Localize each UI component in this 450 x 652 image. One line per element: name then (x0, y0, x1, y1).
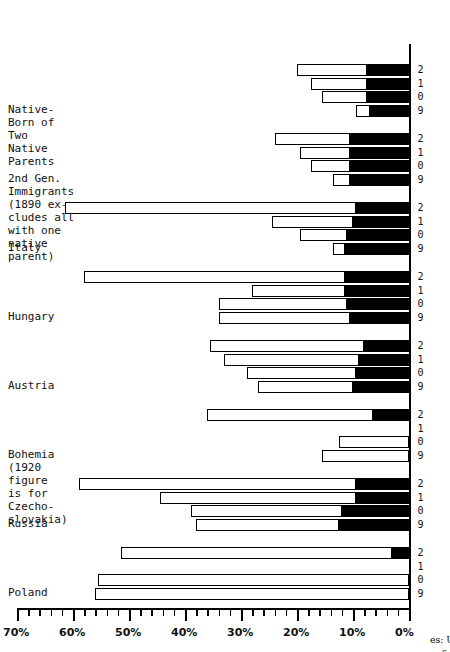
decade-tick-label: 0 (413, 230, 427, 241)
bar-segment-black (356, 202, 409, 214)
decade-tick-label: 1 (413, 492, 427, 503)
bar (300, 147, 409, 159)
axis-tick-label: 60% (59, 626, 85, 639)
axis-tick-major (73, 610, 75, 621)
axis-tick-minor (62, 610, 64, 616)
decade-tick-label: 1 (413, 423, 427, 434)
bar-segment-black (345, 285, 409, 297)
plot-area: 0%10%20%30%40%50%60%70% 9012901290129012… (0, 0, 450, 652)
bar-segment-black (373, 409, 409, 421)
bar-segment-white (322, 450, 409, 462)
bar-segment-white (95, 588, 409, 600)
bar (191, 505, 409, 517)
bar (275, 133, 409, 145)
bar-segment-white (219, 298, 348, 310)
bar (258, 381, 409, 393)
axis-tick-minor (207, 610, 209, 616)
bar-segment-white (333, 243, 344, 255)
decade-tick-label: 9 (413, 243, 427, 254)
bar (207, 409, 409, 421)
bar-segment-white (65, 202, 356, 214)
axis-tick-minor (230, 610, 232, 616)
bar (272, 216, 409, 228)
bar-segment-white (121, 547, 393, 559)
bar-segment-black (356, 367, 409, 379)
group-label-2nd-gen-immigrants: 2nd Gen. Immigrants (1890 ex- cludes all… (8, 172, 74, 263)
bar-segment-black (350, 174, 409, 186)
bar-segment-black (345, 243, 409, 255)
bar (84, 271, 409, 283)
axis-tick-minor (196, 610, 198, 616)
bar-segment-white (300, 229, 348, 241)
axis-tick-major (17, 610, 19, 621)
bar-segment-white (191, 505, 342, 517)
axis-tick-label: 50% (115, 626, 141, 639)
bar-segment-black (353, 216, 409, 228)
bar (196, 519, 409, 531)
decade-tick-label: 9 (413, 519, 427, 530)
bar (98, 574, 409, 586)
bar-segment-white (300, 147, 350, 159)
bar-segment-black (347, 298, 409, 310)
decade-tick-label: 9 (413, 381, 427, 392)
bar-segment-white (98, 574, 409, 586)
axis-tick-major (185, 610, 187, 621)
bar-segment-black (370, 105, 409, 117)
bar-segment-white (247, 367, 356, 379)
bar-segment-black (350, 133, 409, 145)
bar (219, 298, 409, 310)
bar (247, 367, 409, 379)
bar (297, 64, 409, 76)
axis-tick-minor (286, 610, 288, 616)
axis-tick-minor (252, 610, 254, 616)
axis-tick-major (409, 610, 411, 621)
bar-segment-black (350, 312, 409, 324)
bar (252, 285, 409, 297)
axis-tick-minor (163, 610, 165, 616)
decade-tick-label: 1 (413, 78, 427, 89)
axis-tick-minor (151, 610, 153, 616)
bar (322, 91, 409, 103)
bar-segment-white (311, 160, 350, 172)
axis-tick-minor (342, 610, 344, 616)
bar-segment-black (392, 547, 409, 559)
bar (356, 105, 409, 117)
bar (300, 229, 409, 241)
axis-tick-major (297, 610, 299, 621)
decade-tick-label: 1 (413, 285, 427, 296)
axis-tick-minor (398, 610, 400, 616)
decade-tick-label: 9 (413, 174, 427, 185)
bar (333, 243, 409, 255)
group-label-poland: Poland (8, 586, 48, 599)
axis-tick-label: 10% (339, 626, 365, 639)
bar-segment-white (252, 285, 344, 297)
bar-segment-black (364, 340, 409, 352)
bar-segment-black (367, 91, 409, 103)
decade-tick-label: 0 (413, 161, 427, 172)
axis-tick-minor (364, 610, 366, 616)
bar-segment-white (84, 271, 344, 283)
decade-tick-label: 2 (413, 341, 427, 352)
decade-tick-label: 0 (413, 92, 427, 103)
axis-tick-minor (107, 610, 109, 616)
decade-tick-label: 0 (413, 368, 427, 379)
decade-tick-label: 2 (413, 479, 427, 490)
axis-tick-minor (387, 610, 389, 616)
bar-segment-black (342, 505, 409, 517)
bar-segment-black (345, 271, 409, 283)
bar-segment-black (359, 354, 409, 366)
bar-segment-white (79, 478, 356, 490)
axis-tick-minor (375, 610, 377, 616)
bar-segment-black (350, 147, 409, 159)
decade-tick-label: 0 (413, 575, 427, 586)
bar-segment-white (333, 174, 350, 186)
decade-tick-label: 1 (413, 147, 427, 158)
axis-tick-label: 20% (283, 626, 309, 639)
axis-tick-minor (331, 610, 333, 616)
bar-segment-white (297, 64, 367, 76)
footnote-line-1: es: U.S. Censuses: 1890, Vol. I, Part 1,… (430, 634, 450, 645)
bar (121, 547, 409, 559)
decade-tick-label: 1 (413, 216, 427, 227)
axis-tick-label: 0% (395, 626, 414, 639)
rotated-figure: 0%10%20%30%40%50%60%70% 9012901290129012… (0, 0, 450, 652)
